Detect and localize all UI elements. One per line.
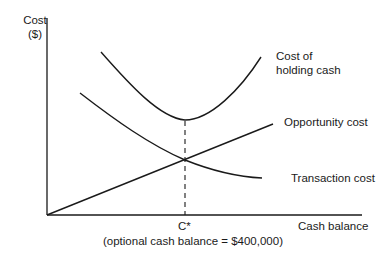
holding-cost-curve: [101, 52, 261, 120]
holding-cost-label-line1: Cost of: [276, 49, 341, 63]
optimal-balance-note: (optional cash balance = $400,000): [103, 234, 283, 248]
y-axis-label-line2: ($): [20, 27, 50, 41]
x-axis-label: Cash balance: [298, 219, 368, 233]
cstar-label: C*: [178, 219, 191, 233]
transaction-cost-label: Transaction cost: [291, 171, 375, 185]
holding-cost-label: Cost of holding cash: [276, 49, 341, 77]
holding-cost-label-line2: holding cash: [276, 63, 341, 77]
y-axis-label: Cost ($): [20, 13, 50, 41]
y-axis-label-line1: Cost: [20, 13, 50, 27]
opportunity-cost-line: [47, 124, 273, 215]
opportunity-cost-label: Opportunity cost: [284, 115, 368, 129]
